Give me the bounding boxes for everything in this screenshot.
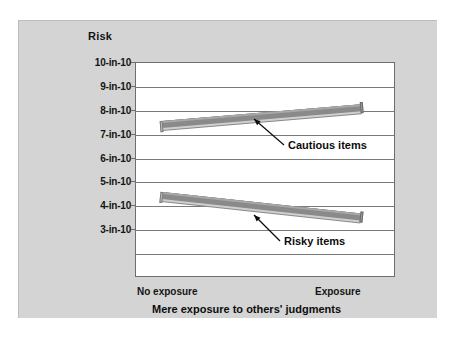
y-tick-label: 3-in-10 [100, 224, 131, 235]
gridline [136, 159, 394, 160]
plot-area: Cautious itemsRisky items [135, 62, 395, 277]
gridline [136, 254, 394, 255]
x-axis-title: Mere exposure to others' judgments [152, 303, 341, 315]
y-tick-label: 9-in-10 [100, 80, 131, 91]
cautious-items-band-capR [359, 102, 363, 113]
figure-panel: Risk 10-in-109-in-108-in-107-in-106-in-1… [18, 20, 437, 318]
y-tick-label: 5-in-10 [100, 176, 131, 187]
gridline [136, 87, 394, 88]
y-tick-label: 10-in-10 [95, 57, 131, 68]
y-tick-label: 6-in-10 [100, 152, 131, 163]
y-axis-tick-labels: 10-in-109-in-108-in-107-in-106-in-105-in… [18, 62, 131, 277]
y-tick-label: 7-in-10 [100, 128, 131, 139]
cautious-items-annotation-leader-arrow [246, 111, 292, 153]
risky-items-band-capR [360, 212, 364, 223]
x-tick-label-right: Exposure [315, 286, 361, 297]
risky-items-annotation-leader-arrow [246, 207, 288, 249]
x-tick-label-left: No exposure [137, 286, 198, 297]
y-tick-label: 8-in-10 [100, 104, 131, 115]
y-axis-title: Risk [88, 30, 112, 42]
gridline [136, 182, 394, 183]
risky-items-annotation-label: Risky items [284, 235, 345, 247]
cautious-items-annotation-label: Cautious items [288, 139, 367, 151]
y-tick-label: 4-in-10 [100, 200, 131, 211]
